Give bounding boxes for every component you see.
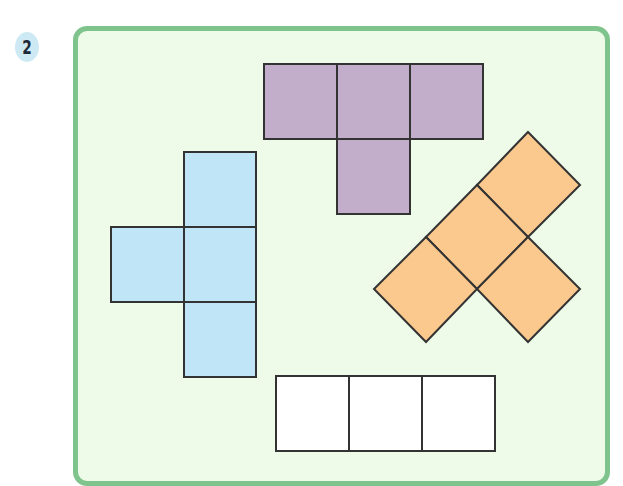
purple-t-net [264, 64, 483, 214]
blue-cross-net [111, 152, 256, 377]
white-row [276, 376, 495, 451]
